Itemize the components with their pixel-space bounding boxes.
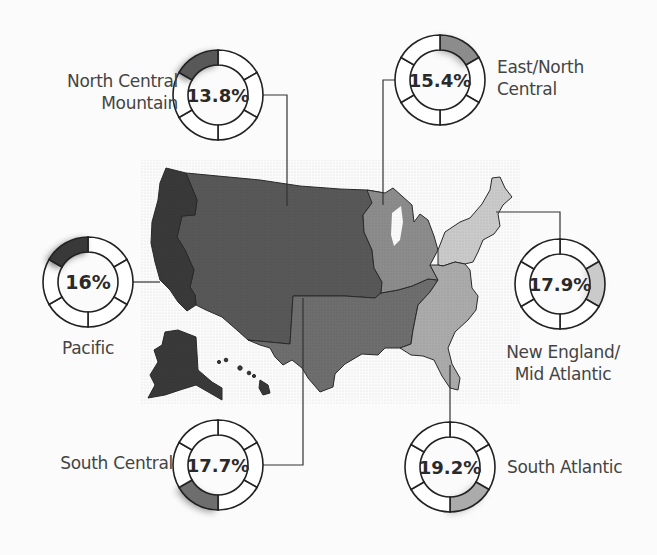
ring-segment [521,239,560,269]
region-label-line: Central [497,78,637,100]
region-label-sa: South Atlantic [507,456,647,478]
region-label-line: East/North [497,56,637,78]
ring-gauge-ne: 17.9% [515,239,605,329]
region-label-line: North Central [40,70,178,92]
ring-highlight-segment [450,482,489,512]
region-share-infographic: 13.8%15.4%16%17.9%17.7%19.2% North Centr… [0,0,657,555]
region-label-line: Mid Atlantic [488,363,638,385]
ring-gauge-sc: 17.7% [173,420,263,512]
ring-highlight-segment [49,237,88,267]
region-label-line: South Central [20,452,173,474]
region-label-ne: New England/Mid Atlantic [488,341,638,385]
ring-gauge-pac: 16% [43,237,133,327]
region-label-line: New England/ [488,341,638,363]
ring-value: 15.4% [409,70,471,91]
region-label-line: Mountain [40,92,178,114]
region-label-line: South Atlantic [507,456,647,478]
ring-segment [218,110,257,140]
connector-ne [496,212,560,240]
ring-segment [218,480,257,510]
ring-segment [401,35,440,65]
ring-segment [560,299,599,329]
map-region-new-england-mid-atlantic[interactable] [438,177,512,266]
map-region-hawaii[interactable] [217,358,270,395]
ring-segment [440,95,479,125]
us-map [140,160,520,405]
ring-segment [411,422,450,452]
ring-gauge-enc: 15.4% [395,35,485,125]
region-label-ncm: North CentralMountain [40,70,178,114]
map-region-alaska[interactable] [148,330,222,400]
ring-value: 17.7% [187,455,249,476]
connector-enc [383,80,395,205]
ring-value: 17.9% [529,274,591,295]
ring-gauge-ncm: 13.8% [173,50,263,140]
region-label-pac: Pacific [40,337,136,359]
region-label-line: Pacific [40,337,136,359]
ring-gauge-sa: 19.2% [405,422,495,514]
region-label-sc: South Central [20,452,173,474]
ring-value: 19.2% [419,457,481,478]
region-label-enc: East/NorthCentral [497,56,637,100]
ring-value: 13.8% [187,85,249,106]
ring-segment [88,297,127,327]
ring-segment [179,420,218,450]
ring-highlight-segment [179,50,218,80]
ring-value: 16% [65,271,110,293]
